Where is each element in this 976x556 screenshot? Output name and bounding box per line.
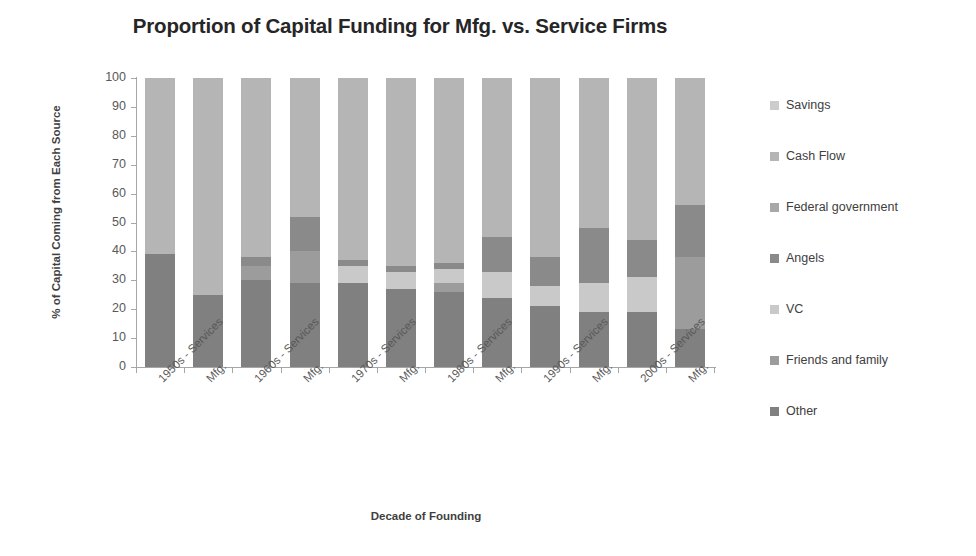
legend-item-1[interactable]: Cash Flow (770, 149, 970, 163)
bar-segment[interactable] (434, 292, 464, 367)
bar-segment[interactable] (241, 257, 271, 266)
y-tick-label-50: 50 (84, 215, 126, 229)
bar-segment[interactable] (241, 78, 271, 257)
bar-segment[interactable] (579, 78, 609, 228)
y-tick-label-10: 10 (84, 330, 126, 344)
legend-item-3[interactable]: Angels (770, 251, 970, 265)
bar-segment[interactable] (241, 280, 271, 367)
legend-swatch-icon (770, 203, 779, 212)
bar-segment[interactable] (482, 237, 512, 272)
legend-swatch-icon (770, 254, 779, 263)
x-tick-3 (281, 367, 282, 373)
legend-label: Savings (786, 98, 830, 112)
y-tick-label-90: 90 (84, 99, 126, 113)
bar-segment[interactable] (338, 266, 368, 283)
bar-segment[interactable] (530, 306, 560, 367)
bar-segment[interactable] (290, 217, 320, 252)
x-tick-9 (570, 367, 571, 373)
legend-item-0[interactable]: Savings (770, 98, 970, 112)
legend-swatch-icon (770, 305, 779, 314)
bar-segment[interactable] (386, 78, 416, 266)
x-tick-7 (473, 367, 474, 373)
x-tick-0 (136, 367, 137, 373)
y-tick-label-100: 100 (84, 70, 126, 84)
x-tick-12 (714, 367, 715, 373)
y-tick-label-70: 70 (84, 157, 126, 171)
x-axis-title: Decade of Founding (136, 510, 716, 522)
x-tick-5 (377, 367, 378, 373)
x-tick-8 (521, 367, 522, 373)
y-tick-label-0: 0 (84, 359, 126, 373)
x-tick-2 (232, 367, 233, 373)
bar-segment[interactable] (290, 78, 320, 217)
x-tick-10 (618, 367, 619, 373)
bar-segment[interactable] (386, 272, 416, 289)
bar-segment[interactable] (145, 254, 175, 367)
bar-segment[interactable] (627, 312, 657, 367)
y-tick-label-60: 60 (84, 186, 126, 200)
y-axis-title: % of Capital Coming from Each Source (50, 62, 62, 362)
bar-segment[interactable] (434, 283, 464, 292)
bar-segment[interactable] (579, 228, 609, 283)
bar-segment[interactable] (193, 78, 223, 295)
bar-segment[interactable] (434, 263, 464, 269)
bar-10[interactable] (627, 78, 657, 367)
y-tick-label-20: 20 (84, 301, 126, 315)
bar-segment[interactable] (290, 251, 320, 283)
bar-4[interactable] (338, 78, 368, 367)
bar-segment[interactable] (627, 78, 657, 240)
bar-segment[interactable] (338, 78, 368, 260)
y-tick-label-30: 30 (84, 272, 126, 286)
legend-swatch-icon (770, 407, 779, 416)
bar-segment[interactable] (386, 266, 416, 272)
legend-swatch-icon (770, 152, 779, 161)
bar-segment[interactable] (530, 78, 560, 257)
y-tick-label-80: 80 (84, 128, 126, 142)
legend-label: Federal government (786, 200, 898, 214)
chart-container: Proportion of Capital Funding for Mfg. v… (0, 0, 976, 556)
legend-item-4[interactable]: VC (770, 302, 970, 316)
bar-segment[interactable] (241, 266, 271, 280)
x-tick-6 (425, 367, 426, 373)
bar-segment[interactable] (530, 257, 560, 286)
legend-label: Other (786, 404, 817, 418)
bar-segment[interactable] (482, 78, 512, 237)
bar-segment[interactable] (627, 240, 657, 278)
legend-item-5[interactable]: Friends and family (770, 353, 970, 367)
legend-label: Friends and family (786, 353, 888, 367)
x-tick-11 (666, 367, 667, 373)
legend-item-6[interactable]: Other (770, 404, 970, 418)
bar-segment[interactable] (434, 78, 464, 263)
bar-segment[interactable] (675, 78, 705, 205)
bar-0[interactable] (145, 78, 175, 367)
legend-item-2[interactable]: Federal government (770, 200, 970, 214)
x-tick-4 (329, 367, 330, 373)
legend-label: Cash Flow (786, 149, 845, 163)
legend-label: Angels (786, 251, 824, 265)
chart-legend: SavingsCash FlowFederal governmentAngels… (770, 98, 970, 455)
legend-label: VC (786, 302, 803, 316)
legend-swatch-icon (770, 356, 779, 365)
bar-8[interactable] (530, 78, 560, 367)
bar-segment[interactable] (530, 286, 560, 306)
legend-swatch-icon (770, 101, 779, 110)
bar-segment[interactable] (627, 277, 657, 312)
x-tick-1 (184, 367, 185, 373)
bar-segment[interactable] (482, 272, 512, 298)
bar-segment[interactable] (675, 205, 705, 257)
y-tick-label-40: 40 (84, 243, 126, 257)
bar-2[interactable] (241, 78, 271, 367)
bar-6[interactable] (434, 78, 464, 367)
bar-segment[interactable] (145, 78, 175, 254)
chart-title: Proportion of Capital Funding for Mfg. v… (0, 14, 800, 38)
bar-segment[interactable] (338, 283, 368, 367)
bar-segment[interactable] (338, 260, 368, 266)
bar-segment[interactable] (579, 283, 609, 312)
bar-segment[interactable] (434, 269, 464, 283)
